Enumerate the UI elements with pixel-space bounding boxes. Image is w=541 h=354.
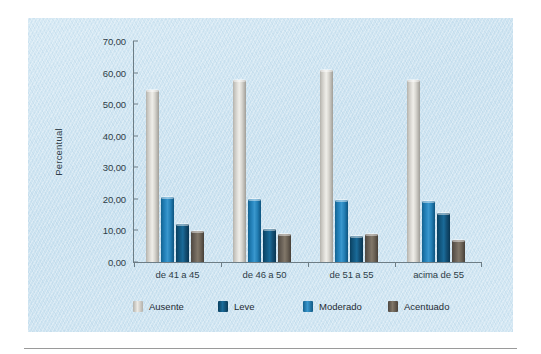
bar-group (221, 41, 308, 262)
x-axis-tick-mark (134, 262, 135, 267)
x-axis-tick-labels: de 41 a 45de 46 a 50de 51 a 55acima de 5… (134, 269, 482, 280)
bar-acentuado[interactable] (365, 234, 378, 262)
legend-item[interactable]: Ausente (133, 301, 218, 312)
y-axis-tick-label: 50,00 (0, 99, 133, 110)
y-axis-tick-label: 10,00 (0, 225, 133, 236)
bar-ausente[interactable] (233, 80, 246, 262)
legend-swatch-icon (133, 301, 143, 312)
x-axis-tick-label: de 41 a 45 (134, 269, 221, 280)
y-axis-tick-label: 20,00 (0, 193, 133, 204)
y-axis-tick-label: 40,00 (0, 130, 133, 141)
legend-item[interactable]: Moderado (303, 301, 388, 312)
bar-acentuado[interactable] (278, 234, 291, 262)
bar-ausente[interactable] (146, 90, 159, 262)
bar-moderado[interactable] (335, 200, 348, 262)
legend-swatch-icon (388, 301, 398, 312)
bar-leve[interactable] (263, 229, 276, 262)
bar-leve[interactable] (176, 224, 189, 262)
legend-label: Moderado (319, 301, 362, 312)
bar-group (308, 41, 395, 262)
legend-label: Acentuado (404, 301, 449, 312)
x-axis-tick-mark (221, 262, 222, 267)
y-axis-tick-label: 30,00 (0, 162, 133, 173)
legend-label: Leve (234, 301, 255, 312)
x-axis-tick-mark (481, 262, 482, 267)
bar-leve[interactable] (350, 236, 363, 262)
chart-figure: Percentual 70,0060,0050,0040,0030,0020,0… (0, 0, 541, 354)
bar-group (134, 41, 221, 262)
bar-acentuado[interactable] (452, 240, 465, 262)
bar-leve[interactable] (437, 213, 450, 262)
bar-ausente[interactable] (320, 70, 333, 262)
bar-moderado[interactable] (422, 201, 435, 262)
legend-item[interactable]: Leve (218, 301, 303, 312)
x-axis-tick-mark (308, 262, 309, 267)
y-axis-tick-label: 60,00 (0, 67, 133, 78)
bar-acentuado[interactable] (191, 231, 204, 262)
x-axis-tick-label: de 46 a 50 (221, 269, 308, 280)
bar-moderado[interactable] (248, 199, 261, 262)
x-axis-tick-label: de 51 a 55 (308, 269, 395, 280)
y-axis-tick-label: 70,00 (0, 36, 133, 47)
legend-label: Ausente (149, 301, 184, 312)
legend-swatch-icon (303, 301, 313, 312)
bar-groups (134, 41, 482, 262)
bar-group (395, 41, 482, 262)
bar-ausente[interactable] (407, 80, 420, 262)
bar-moderado[interactable] (161, 197, 174, 262)
legend-swatch-icon (218, 301, 228, 312)
x-axis-tick-mark (395, 262, 396, 267)
legend-item[interactable]: Acentuado (388, 301, 473, 312)
bottom-divider-rule (24, 348, 517, 349)
x-axis-tick-label: acima de 55 (395, 269, 482, 280)
chart-legend: AusenteLeveModeradoAcentuado (133, 301, 473, 312)
y-axis-tick-label: 0,00 (0, 257, 133, 268)
